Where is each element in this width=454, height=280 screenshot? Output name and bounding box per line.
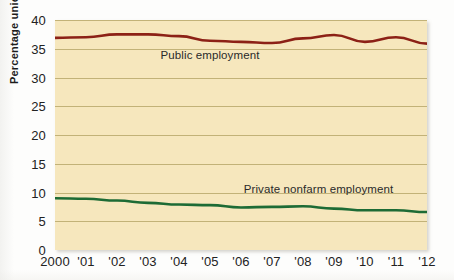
series-line-private <box>55 198 427 212</box>
x-tick-label: '01 <box>77 254 95 269</box>
x-axis-tick-labels: 2000'01'02'03'04'05'06'07'08'09'10'11'12 <box>0 252 454 278</box>
y-tick-label: 20 <box>31 128 46 143</box>
y-tick-label: 5 <box>39 214 46 229</box>
x-tick-label: '04 <box>170 254 188 269</box>
y-tick-label: 35 <box>31 41 46 56</box>
x-tick-label: '11 <box>388 254 405 269</box>
x-tick-label: '12 <box>418 254 436 269</box>
x-tick-label: '10 <box>356 254 374 269</box>
x-tick-label: '09 <box>325 254 343 269</box>
series-label-public-employment: Public employment <box>161 49 260 61</box>
y-tick-label: 10 <box>31 185 46 200</box>
y-tick-label: 30 <box>31 70 46 85</box>
y-tick-label: 25 <box>31 99 46 114</box>
plot-inner: Public employment Private nonfarm employ… <box>55 20 427 250</box>
x-tick-label: '03 <box>139 254 157 269</box>
x-tick-label: '02 <box>108 254 126 269</box>
y-tick-label: 40 <box>31 13 46 28</box>
x-tick-label: '07 <box>263 254 281 269</box>
y-axis-tick-labels: 0510152025303540 <box>0 0 52 280</box>
series-line-public <box>55 34 427 43</box>
chart-figure: Percentage unionized 0510152025303540 Pu… <box>0 0 454 280</box>
x-tick-label: '06 <box>232 254 250 269</box>
y-tick-label: 15 <box>31 156 46 171</box>
x-tick-label: '08 <box>294 254 312 269</box>
series-label-private-nonfarm-employment: Private nonfarm employment <box>244 183 394 195</box>
x-tick-label: 2000 <box>40 254 70 269</box>
x-tick-label: '05 <box>201 254 219 269</box>
plot-area: Public employment Private nonfarm employ… <box>55 20 427 250</box>
